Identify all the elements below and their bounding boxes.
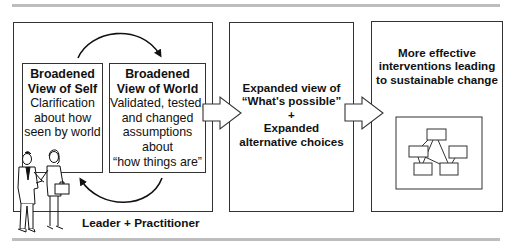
block-arrow-stage2-to-stage3	[345, 97, 383, 129]
connectors-and-illustrations	[0, 0, 517, 248]
handshake-people-icon	[18, 150, 69, 232]
leader-practitioner-caption: Leader + Practitioner	[82, 216, 200, 230]
cycle-arrow-self-to-world	[78, 33, 160, 58]
cycle-arrow-world-to-self	[81, 178, 162, 202]
network-diagram-icon	[396, 117, 482, 189]
block-arrow-stage1-to-stage2	[203, 97, 241, 129]
bottom-rule	[12, 238, 500, 241]
